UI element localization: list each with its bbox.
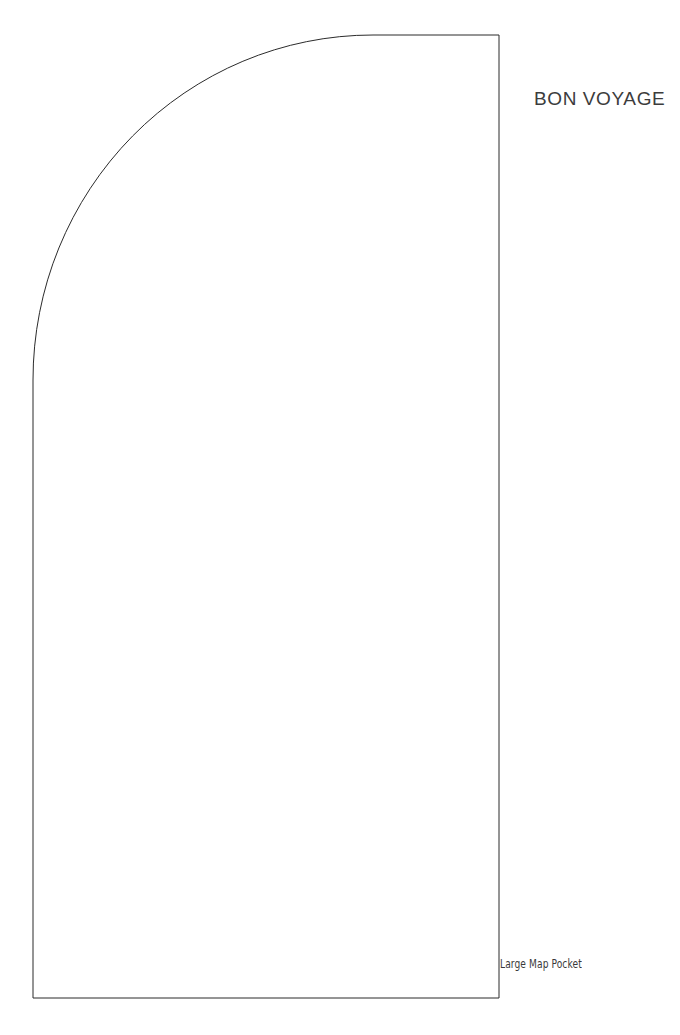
piece-name-label: Large Map Pocket (500, 957, 582, 971)
pattern-page: BON VOYAGE Large Map Pocket (0, 0, 680, 1035)
page-title: BON VOYAGE (534, 88, 665, 110)
pattern-drawing (0, 0, 680, 1035)
large-map-pocket-outline (33, 35, 499, 998)
